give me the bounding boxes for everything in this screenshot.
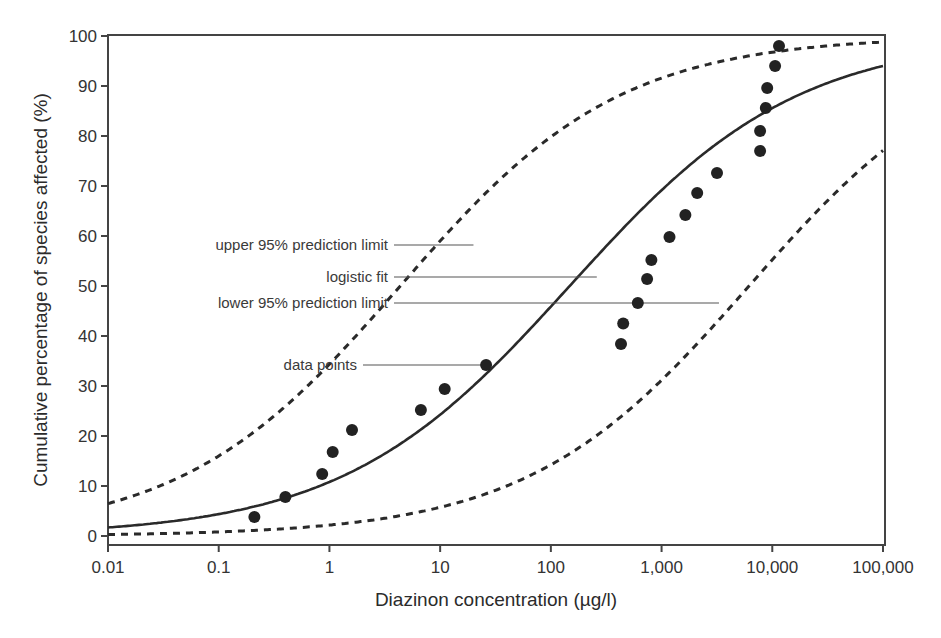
data-point	[664, 231, 676, 243]
data-point	[769, 60, 781, 72]
lower-95-prediction-limit-curve	[108, 151, 883, 535]
data-point	[645, 254, 657, 266]
data-point	[327, 446, 339, 458]
data-point	[316, 468, 328, 480]
annotation-label: upper 95% prediction limit	[215, 236, 388, 253]
data-point	[691, 187, 703, 199]
annotation-label: data points	[284, 356, 357, 373]
data-point	[415, 404, 427, 416]
x-axis: 0.010.11101001,00010,000100,000	[91, 545, 913, 577]
y-tick-label: 90	[78, 77, 97, 96]
y-tick-label: 40	[78, 327, 97, 346]
chart: 0102030405060708090100 0.010.11101001,00…	[0, 0, 941, 638]
y-tick-label: 0	[88, 527, 97, 546]
data-point	[439, 383, 451, 395]
x-tick-label: 1	[325, 558, 334, 577]
data-point	[760, 102, 772, 114]
x-tick-label: 0.01	[91, 558, 124, 577]
data-point	[679, 209, 691, 221]
x-tick-label: 1,000	[640, 558, 683, 577]
y-tick-label: 10	[78, 477, 97, 496]
data-point	[617, 318, 629, 330]
y-tick-label: 60	[78, 227, 97, 246]
data-point	[480, 359, 492, 371]
y-axis: 0102030405060708090100	[69, 27, 108, 546]
y-tick-label: 30	[78, 377, 97, 396]
curves	[108, 42, 883, 535]
data-point	[248, 511, 260, 523]
data-point	[632, 297, 644, 309]
y-tick-label: 50	[78, 277, 97, 296]
x-tick-label: 10	[431, 558, 450, 577]
data-point	[346, 424, 358, 436]
annotations: upper 95% prediction limitlogistic fitlo…	[215, 236, 388, 373]
y-tick-label: 80	[78, 127, 97, 146]
x-axis-title: Diazinon concentration (µg/l)	[375, 589, 617, 610]
data-point	[615, 338, 627, 350]
x-tick-label: 100,000	[852, 558, 913, 577]
data-point	[773, 40, 785, 52]
x-tick-label: 10,000	[746, 558, 798, 577]
x-tick-label: 100	[537, 558, 565, 577]
y-tick-label: 70	[78, 177, 97, 196]
annotation-label: logistic fit	[326, 268, 389, 285]
data-point	[711, 167, 723, 179]
annotation-leaders	[363, 245, 719, 365]
data-point	[754, 145, 766, 157]
y-axis-title: Cumulative percentage of species affecte…	[30, 93, 51, 487]
data-point	[754, 125, 766, 137]
annotation-label: lower 95% prediction limit	[218, 294, 389, 311]
x-tick-label: 0.1	[207, 558, 231, 577]
y-tick-label: 20	[78, 427, 97, 446]
data-point	[641, 273, 653, 285]
data-point	[279, 491, 291, 503]
data-point	[761, 82, 773, 94]
y-tick-label: 100	[69, 27, 97, 46]
